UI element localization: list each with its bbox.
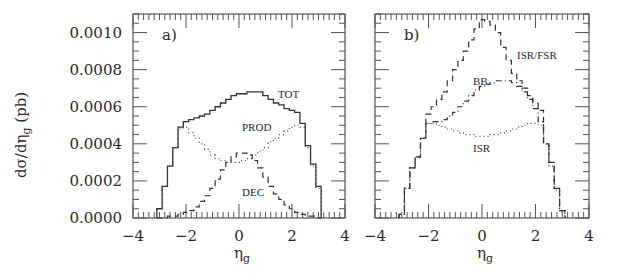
panel-b-x-tick-labels: −4 −2 0 2 4	[364, 227, 594, 245]
curve-isr	[399, 123, 565, 218]
curve-label-dec: DEC	[242, 186, 264, 198]
panel-a-x-tick-labels: −4 −2 0 2 4	[122, 227, 350, 245]
curve-label-isr: ISR	[473, 142, 491, 154]
y-tick-labels: 0.0000 0.0002 0.0004 0.0006 0.0008 0.001…	[70, 24, 123, 227]
x-tick-a-1: −2	[175, 227, 197, 245]
x-tick-b-4: 4	[584, 227, 594, 245]
y-tick-3: 0.0006	[70, 98, 123, 116]
curve-label-bb: BB	[473, 75, 488, 87]
curve-label-prod: PROD	[242, 121, 271, 133]
y-tick-1: 0.0002	[70, 172, 123, 190]
panel-b: b) ISR/FSR BB ISR −4 −2 0 2 4 ηg	[364, 14, 594, 265]
y-tick-4: 0.0008	[70, 61, 123, 79]
x-tick-a-4: 4	[340, 227, 350, 245]
panel-a-label: a)	[162, 26, 177, 44]
figure: dσ/dηg (pb) 0.0000 0.0002 0.0004 0.0006 …	[0, 0, 623, 275]
x-tick-b-3: 2	[531, 227, 541, 245]
x-tick-b-0: −4	[364, 227, 386, 245]
panel-a-frame	[133, 14, 345, 218]
y-tick-2: 0.0004	[70, 135, 123, 153]
panel-a: a) TOT PROD DEC −4 −2 0 2 4 ηg	[122, 14, 350, 265]
panel-a-curves	[157, 92, 321, 218]
x-tick-a-0: −4	[122, 227, 144, 245]
curve-label-tot: TOT	[278, 88, 299, 100]
panel-b-ticks	[375, 14, 589, 218]
y-tick-0: 0.0000	[70, 209, 123, 227]
curve-label-isrfsr: ISR/FSR	[517, 49, 557, 61]
y-axis-title-main: dσ/dη	[12, 135, 30, 178]
x-tick-a-2: 0	[234, 227, 244, 245]
y-tick-5: 0.0010	[70, 24, 123, 42]
x-tick-b-1: −2	[417, 227, 439, 245]
x-tick-b-2: 0	[477, 227, 487, 245]
panel-a-ticks	[133, 14, 345, 218]
panel-a-x-axis-title: ηg	[234, 244, 250, 265]
svg-text:dσ/dηg (pb): dσ/dηg (pb)	[12, 92, 33, 178]
x-tick-a-3: 2	[287, 227, 297, 245]
y-axis-title-unit: (pb)	[12, 92, 30, 128]
panel-b-frame	[375, 14, 589, 218]
y-axis-title-sub: g	[20, 127, 33, 134]
curve-tot	[157, 92, 321, 218]
panel-b-label: b)	[404, 26, 419, 44]
y-axis-title: dσ/dηg (pb)	[12, 92, 33, 178]
panel-b-x-axis-title: ηg	[477, 244, 493, 265]
